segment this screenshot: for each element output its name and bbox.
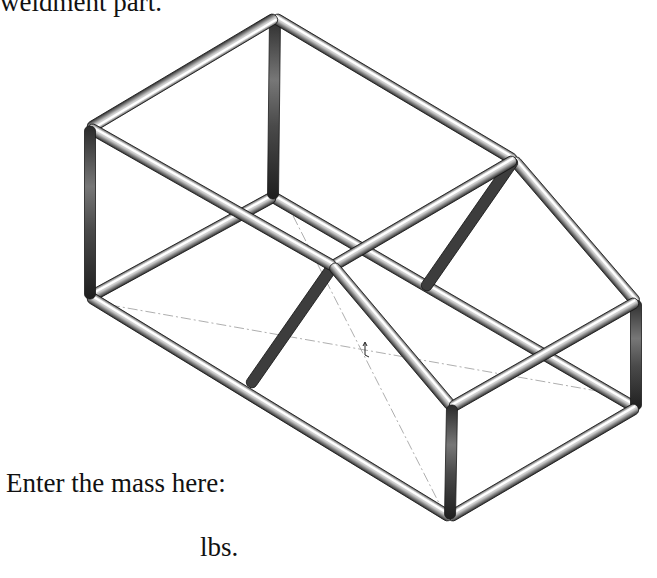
bottom-back-rail bbox=[269, 191, 641, 414]
top-front-rail bbox=[86, 122, 338, 272]
post-back-right bbox=[631, 300, 642, 410]
post-front-right bbox=[444, 405, 457, 519]
mass-prompt-label: Enter the mass here: bbox=[6, 466, 226, 500]
front-slope-rail bbox=[328, 261, 458, 412]
bottom-right-rail bbox=[445, 402, 640, 523]
top-back-rail bbox=[270, 12, 518, 165]
top-left-rail bbox=[85, 12, 279, 133]
back-slope-rail bbox=[509, 155, 642, 307]
mass-unit-label: lbs. bbox=[200, 530, 238, 564]
post-back-left bbox=[267, 16, 280, 199]
front-brace bbox=[244, 261, 338, 390]
ridge-rail bbox=[328, 154, 518, 272]
mass-answer-row: lbs. bbox=[150, 530, 238, 570]
post-front-left bbox=[85, 126, 96, 299]
frame-members bbox=[85, 12, 642, 523]
bottom-left-rail bbox=[86, 191, 278, 303]
back-brace bbox=[419, 155, 519, 293]
mass-input[interactable] bbox=[150, 533, 200, 563]
